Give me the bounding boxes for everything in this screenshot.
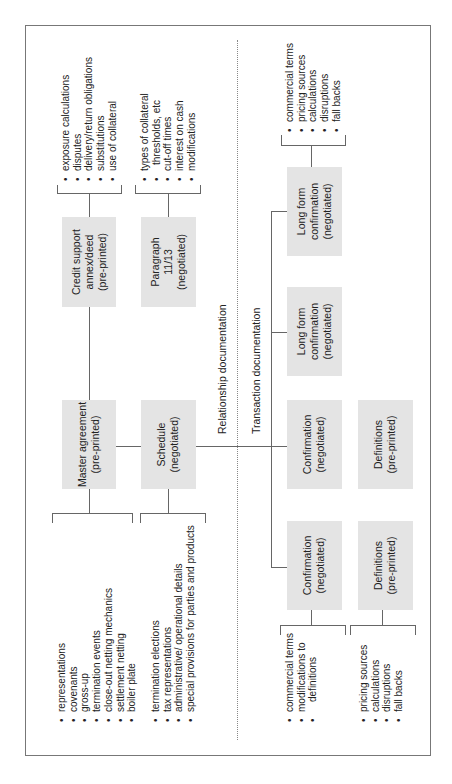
box-title: confirmation xyxy=(308,287,321,376)
bracket-tip xyxy=(280,625,281,635)
box-subtitle: (negotiated) xyxy=(321,167,334,256)
definitions-list: pricing sources calculations disruptions… xyxy=(358,645,405,722)
section-divider xyxy=(237,40,238,740)
credit-support-list: exposure calculations disputes delivery/… xyxy=(60,57,119,181)
stem-master xyxy=(89,489,90,513)
master-agreement-box: Master agreement (pre-printed) xyxy=(62,400,116,489)
stem-definitions xyxy=(382,610,383,625)
box-title: Schedule xyxy=(155,400,168,489)
box-title: 11/13 xyxy=(162,217,175,307)
list-item: disruptions xyxy=(319,43,331,132)
box-subtitle: (negotiated) xyxy=(321,287,334,376)
confirmation-box-1: Confirmation (negotiated) xyxy=(287,400,342,489)
box-title: confirmation xyxy=(308,167,321,256)
box-subtitle: (pre-printed) xyxy=(96,217,109,307)
connector-longform-b xyxy=(271,332,287,333)
bracket-tip xyxy=(121,185,122,194)
confirmation-box-2: Confirmation (negotiated) xyxy=(287,521,342,610)
bracket-credit xyxy=(57,193,121,194)
stem-longform xyxy=(311,145,312,167)
bracket-tip xyxy=(200,185,201,194)
relationship-label: Relationship documentation xyxy=(216,304,228,434)
connector-master-credit xyxy=(89,307,90,400)
bracket-master xyxy=(52,513,132,514)
list-item: termination elections xyxy=(150,525,162,722)
bracket-tip xyxy=(57,185,58,194)
credit-support-box: Credit support annex/deed (pre-printed) xyxy=(62,217,116,307)
list-item: types of collateral xyxy=(139,93,151,181)
box-subtitle: (negotiated) xyxy=(175,217,188,307)
box-subtitle: (pre-printed) xyxy=(385,521,398,610)
connector-confirmation-b xyxy=(271,567,287,568)
box-subtitle: (negotiated) xyxy=(314,521,327,610)
box-title: Paragraph xyxy=(149,217,162,307)
schedule-list: termination elections tax representation… xyxy=(150,525,197,722)
long-form-list: commercial terms pricing sources calcula… xyxy=(284,43,343,132)
long-form-confirmation-box-2: Long form confirmation (negotiated) xyxy=(287,287,342,376)
list-item: exposure calculations xyxy=(60,57,72,181)
list-item: modifications to xyxy=(296,633,308,722)
bracket-tip xyxy=(132,513,133,523)
list-item: cut-off times xyxy=(162,93,174,181)
list-item: thresholds, etc xyxy=(151,93,163,181)
long-form-confirmation-box-1: Long form confirmation (negotiated) xyxy=(287,167,342,256)
list-item: fall backs xyxy=(393,645,405,722)
box-title: annex/deed xyxy=(83,217,96,307)
paragraph-list: types of collateral thresholds, etc cut-… xyxy=(139,93,198,181)
stem-confirmation xyxy=(311,610,312,625)
list-item: delivery/return obligations xyxy=(83,57,95,181)
stem-schedule xyxy=(168,489,169,513)
bracket-tip xyxy=(52,513,53,523)
list-item: settlement netting xyxy=(115,588,127,722)
bracket-tip xyxy=(415,625,416,635)
stem-credit xyxy=(89,193,90,217)
list-item: definitions xyxy=(307,633,319,722)
definitions-box-2: Definitions (pre-printed) xyxy=(358,521,413,610)
bracket-definitions xyxy=(350,625,415,626)
list-item: modifications xyxy=(186,93,198,181)
confirmation-list: commercial terms modifications to defini… xyxy=(284,633,319,722)
list-item: fall backs xyxy=(331,43,343,132)
definitions-box-1: Definitions (pre-printed) xyxy=(358,400,413,489)
list-item: boiler plate xyxy=(126,588,138,722)
bracket-tip xyxy=(281,135,282,146)
bracket-tip xyxy=(345,625,346,635)
box-subtitle: (pre-printed) xyxy=(89,400,102,489)
connector-master-schedule xyxy=(116,446,141,447)
box-title: Definitions xyxy=(372,521,385,610)
list-item: pricing sources xyxy=(358,645,370,722)
list-item: tax representations xyxy=(162,525,174,722)
paragraph-box: Paragraph 11/13 (negotiated) xyxy=(141,217,196,307)
list-item: gross-up xyxy=(79,588,91,722)
list-item: representations xyxy=(56,588,68,722)
list-item: pricing sources xyxy=(296,43,308,132)
list-item: disruptions xyxy=(381,645,393,722)
box-title: Master agreement xyxy=(76,400,89,489)
box-title: Confirmation xyxy=(301,521,314,610)
box-title: Confirmation xyxy=(301,400,314,489)
transaction-trunk xyxy=(271,211,272,568)
list-item: use of collateral xyxy=(107,57,119,181)
bracket-schedule xyxy=(140,513,205,514)
box-title: Credit support xyxy=(70,217,83,307)
schedule-box: Schedule (negotiated) xyxy=(141,400,196,489)
master-agreement-list: representations covenants gross-up termi… xyxy=(56,588,138,722)
list-item: termination events xyxy=(91,588,103,722)
bracket-longform xyxy=(281,145,345,146)
bracket-tip xyxy=(345,135,346,146)
list-item: calculations xyxy=(307,43,319,132)
transaction-label: Transaction documentation xyxy=(250,308,262,434)
bracket-tip xyxy=(135,185,136,194)
box-title: Long form xyxy=(295,287,308,376)
list-item: commercial terms xyxy=(284,43,296,132)
list-item: administrative/ operational details xyxy=(173,525,185,722)
bracket-tip xyxy=(140,513,141,523)
list-item: covenants xyxy=(68,588,80,722)
box-title: Long form xyxy=(295,167,308,256)
bracket-confirmation xyxy=(280,625,345,626)
bracket-paragraph xyxy=(135,193,200,194)
bracket-tip xyxy=(350,625,351,635)
list-item: close-out netting mechanics xyxy=(103,588,115,722)
connector-longform-a xyxy=(271,211,287,212)
list-item: calculations xyxy=(370,645,382,722)
